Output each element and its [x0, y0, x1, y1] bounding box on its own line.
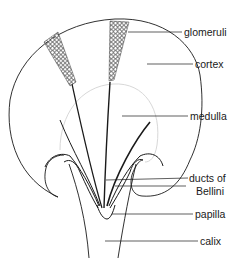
papilla-tip [97, 205, 115, 219]
duct-right-short [107, 122, 150, 206]
glomeruli-cluster-center [109, 21, 129, 81]
label-cortex: cortex [195, 58, 224, 70]
label-papilla: papilla [195, 208, 225, 220]
fornix-left-outer [45, 154, 99, 206]
calix-wall-left [69, 164, 89, 258]
glomeruli-cluster-left [44, 32, 76, 86]
kidney-lobe-diagram [0, 0, 238, 268]
label-medulla: medulla [190, 110, 227, 122]
label-ducts-line1: ducts of [189, 172, 226, 184]
label-calix: calix [200, 235, 221, 247]
duct-center [104, 82, 110, 208]
label-ducts-line2: Bellini [196, 185, 224, 197]
label-glomeruli: glomeruli [184, 26, 227, 38]
fornix-left-inner [64, 160, 98, 208]
leader-ducts-1 [106, 178, 188, 180]
duct-left-short [60, 120, 100, 206]
